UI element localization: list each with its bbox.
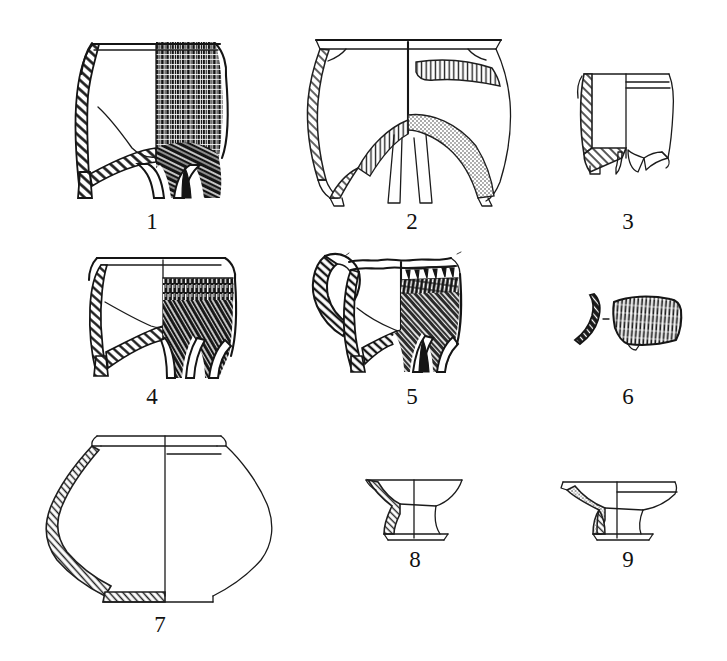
figure-2-caption: 2 [392,210,432,233]
figure-2-wall-section [307,49,338,198]
pottery-plate: 1 [0,0,727,661]
figure-5-wall-section [344,270,401,372]
figure-6-caption: 6 [608,385,648,408]
figure-1-caption: 1 [132,210,172,233]
figure-5-interior-profile [357,308,401,331]
figure-1-tripod-vessel-cord-marked [52,22,257,207]
figure-5-rim-tick-right [457,252,461,254]
figure-1-outer-contour-right [222,76,228,158]
figure-9-pedestal-right [640,510,643,534]
figure-2-neck-left [328,49,346,61]
figure-1-wall-section [76,44,156,198]
figure-9-bowl-contour-right [643,482,677,510]
figure-4-interior-profile [105,302,163,328]
figure-3-exterior-right [626,74,673,158]
figure-8-bowl-interior-line [400,504,436,506]
figure-8-pedestal-right [435,506,440,534]
figure-8-section-left [366,480,400,534]
figure-8-bowl-contour-right [436,480,462,506]
figure-7-wall-section [46,446,165,602]
figure-4-cord-band-upper [163,278,234,302]
figure-4-tripod-vessel-banded-cord-marking [83,248,253,386]
figure-2-tripod-vessel-eroded-surface [296,20,521,210]
figure-4-caption: 4 [132,385,172,408]
figure-6-profile-section [575,294,600,344]
figure-2-neck-right [468,49,486,60]
figure-4-rim [89,258,235,280]
figure-8-caption: 8 [395,548,435,571]
figure-7-caption: 7 [140,613,180,636]
figure-4-wall-section [90,265,163,376]
figure-9-section-left [567,486,605,534]
figure-3-caption: 3 [608,210,648,233]
figure-5-handled-tripod-vessel [305,244,500,389]
figure-7-outer-contour-right [213,446,272,596]
figure-3-tripod-vessel-incised-bands [570,62,690,207]
figure-3-wall-section [578,74,626,172]
figure-2-eroded-shoulder-patch [416,60,500,86]
figure-6-exterior-face [613,297,681,350]
figure-9-caption: 9 [608,548,648,571]
figure-5-caption: 5 [392,385,432,408]
figure-5-rim-tick-left [345,253,349,256]
figure-6-body-sherd-cord-marked [570,282,690,362]
figure-9-pedestal-stand-wide [553,472,683,544]
figure-7-rim [92,436,227,446]
figure-9-bowl-base-line [605,508,643,510]
figure-8-pedestal-stand-tall [358,470,473,545]
figure-8-foot-ring [384,534,448,540]
figure-7-globular-jar-plain [35,424,285,609]
figure-2-eroded-lower-patch [330,115,494,198]
figure-9-foot-ring [593,534,653,540]
